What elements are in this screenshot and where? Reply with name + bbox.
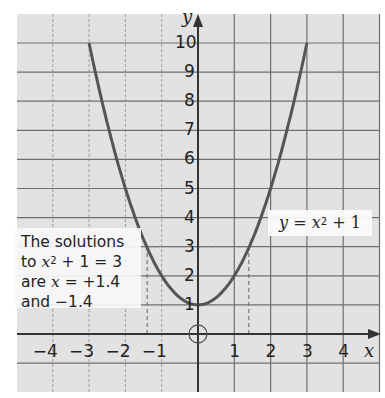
note-line-2: to x2 + 1 = 3 <box>21 252 141 272</box>
note-line-2-pre: to <box>21 253 42 271</box>
y-tick-label: 1 <box>184 296 195 313</box>
equation-suffix: + 1 <box>327 213 361 232</box>
y-tick-label: 2 <box>184 267 195 284</box>
y-tick-label: 10 <box>175 34 197 51</box>
x-axis-label: x <box>364 342 374 360</box>
y-tick-label: 9 <box>184 63 195 80</box>
y-tick-label: 4 <box>184 209 195 226</box>
note-line-2-post: + 1 = 3 <box>57 253 122 271</box>
y-tick-label: 3 <box>184 238 195 255</box>
x-tick-label: 4 <box>338 343 349 360</box>
solutions-note: The solutions to x2 + 1 = 3 are x = +1.4… <box>15 228 141 308</box>
x-tick-label: 2 <box>266 343 277 360</box>
x-tick-label: −2 <box>105 343 130 360</box>
x-tick-label: −4 <box>33 343 58 360</box>
quadratic-graph <box>0 0 385 398</box>
note-line-3-var: x <box>51 273 60 291</box>
note-line-4: and −1.4 <box>21 292 141 312</box>
note-line-2-var: x <box>42 253 51 271</box>
y-axis-label: y <box>182 8 192 26</box>
x-tick-label: −1 <box>142 343 167 360</box>
note-line-3-post: = +1.4 <box>60 273 120 291</box>
x-tick-label: 1 <box>229 343 240 360</box>
x-tick-label: 3 <box>302 343 313 360</box>
equation-label: y = x2 + 1 <box>268 210 372 236</box>
y-tick-label: 5 <box>184 180 195 197</box>
y-tick-label: 6 <box>184 150 195 167</box>
note-line-1: The solutions <box>21 232 141 252</box>
y-tick-label: 7 <box>184 121 195 138</box>
equation-exponent: 2 <box>321 216 327 227</box>
note-exponent: 2 <box>50 255 56 266</box>
y-tick-label: 8 <box>184 92 195 109</box>
x-tick-label: −3 <box>69 343 94 360</box>
equation-prefix: y = x <box>279 213 321 232</box>
note-line-3-pre: are <box>21 273 51 291</box>
note-line-3: are x = +1.4 <box>21 272 141 292</box>
